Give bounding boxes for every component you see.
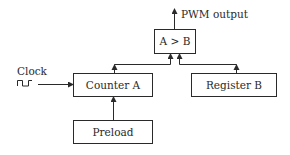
counter-a-block: Counter A: [74, 74, 153, 97]
comparator-block: A > B: [155, 30, 196, 54]
diagram-svg: PWM output A > B Counter A Register B: [0, 0, 290, 155]
pwm-block-diagram: PWM output A > B Counter A Register B: [0, 0, 290, 155]
preload-block: Preload: [74, 121, 153, 144]
preload-label: Preload: [93, 126, 134, 138]
register-b-label: Register B: [206, 79, 262, 91]
comparator-label: A > B: [159, 35, 191, 47]
register-b-block: Register B: [192, 74, 277, 97]
clock-label: Clock: [17, 65, 48, 77]
pwm-output-label: PWM output: [181, 8, 249, 20]
counter-to-comparator-wire: [112, 54, 171, 73]
counter-a-label: Counter A: [86, 79, 141, 91]
register-to-comparator-wire: [180, 54, 240, 73]
clock-waveform-icon: [18, 81, 33, 87]
